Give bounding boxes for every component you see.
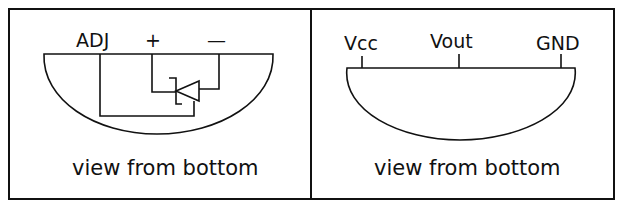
regulator-symbol-icon: [169, 78, 199, 104]
right-package-outline: [347, 68, 576, 140]
pin-label-gnd: GND: [536, 32, 580, 54]
left-panel: ADJ + — view from bottom: [44, 29, 273, 180]
pin-label-vout: Vout: [430, 30, 473, 52]
left-package-outline: [44, 54, 273, 134]
adj-wire: [100, 54, 194, 116]
pin-label-adj: ADJ: [76, 29, 109, 51]
left-caption: view from bottom: [72, 156, 259, 180]
pin-label-plus: +: [145, 29, 161, 51]
minus-wire: [199, 54, 219, 89]
pinout-diagram: ADJ + — view from bottom Vcc Vout GND vi…: [0, 0, 621, 207]
plus-wire: [152, 54, 176, 92]
right-caption: view from bottom: [374, 156, 561, 180]
pin-label-minus: —: [207, 29, 226, 51]
right-panel: Vcc Vout GND view from bottom: [344, 30, 580, 180]
pin-label-vcc: Vcc: [344, 32, 378, 54]
